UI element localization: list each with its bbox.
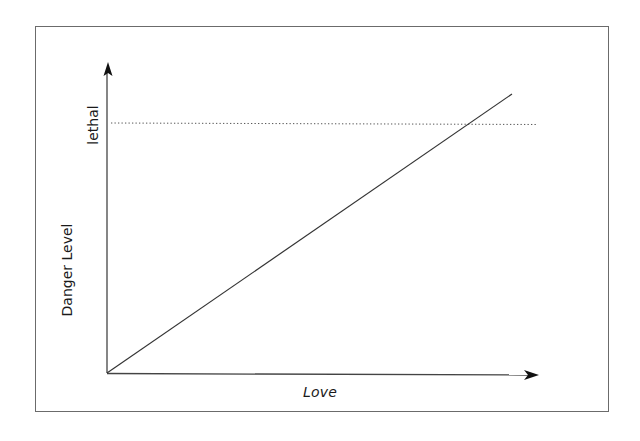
x-axis — [107, 374, 528, 376]
x-axis-label: Love — [280, 384, 360, 400]
lethal-tick-label: lethal — [85, 105, 101, 144]
danger-series-line — [107, 94, 512, 373]
y-axis-arrow-icon — [104, 62, 113, 76]
chart-plot-area — [0, 0, 640, 441]
y-axis-label: Danger Level — [59, 224, 75, 317]
lethal-threshold-line — [111, 123, 538, 125]
